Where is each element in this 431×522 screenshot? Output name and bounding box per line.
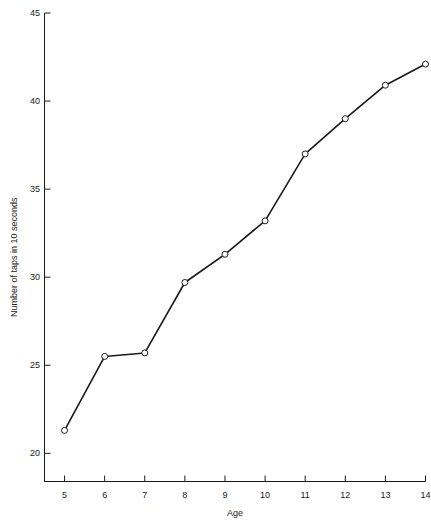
x-tick-label: 7 (142, 491, 147, 500)
data-point-marker (222, 251, 228, 257)
x-tick-label: 5 (62, 491, 67, 500)
data-series-line (65, 64, 426, 430)
data-point-marker (302, 151, 308, 157)
data-point-marker (62, 427, 68, 433)
y-tick-label: 35 (20, 185, 40, 194)
axis-lines (44, 13, 426, 482)
data-point-marker (262, 218, 268, 224)
y-axis-title: Number of taps in 10 seconds (9, 198, 19, 318)
x-tick-label: 6 (102, 491, 107, 500)
x-tick-label: 10 (260, 491, 270, 500)
y-tick-label: 25 (20, 361, 40, 370)
x-tick-label: 12 (340, 491, 350, 500)
x-axis-ticks (65, 476, 426, 482)
x-tick-label: 11 (301, 491, 310, 500)
chart-figure: 202530354045 567891011121314 Age Number … (0, 0, 431, 522)
x-axis-title: Age (227, 508, 243, 518)
y-axis-ticks (45, 13, 51, 453)
data-point-marker (423, 61, 429, 67)
x-tick-label: 14 (420, 491, 430, 500)
y-tick-label: 45 (20, 9, 40, 18)
data-point-marker (382, 82, 388, 88)
data-point-marker (342, 116, 348, 122)
x-tick-label: 8 (182, 491, 187, 500)
data-point-marker (182, 279, 188, 285)
data-point-marker (102, 353, 108, 359)
x-tick-label: 9 (222, 491, 227, 500)
y-tick-label: 20 (20, 449, 40, 458)
y-tick-label: 40 (20, 97, 40, 106)
plot-area (0, 0, 431, 522)
x-tick-label: 13 (380, 491, 390, 500)
data-point-marker (142, 350, 148, 356)
y-tick-label: 30 (20, 273, 40, 282)
data-point-markers (62, 61, 429, 433)
